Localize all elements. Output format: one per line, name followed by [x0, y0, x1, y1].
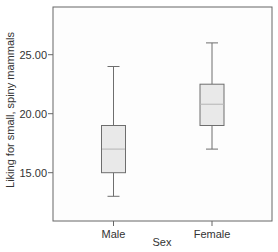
plot-background — [53, 7, 272, 221]
y-tick-label: 20.00 — [19, 108, 47, 120]
y-axis: 15.0020.0025.00 — [19, 49, 53, 179]
box-plot-chart: 15.0020.0025.00 MaleFemale Sex Liking fo… — [0, 0, 278, 252]
x-tick-label: Male — [102, 228, 126, 240]
x-axis-title: Sex — [153, 236, 172, 248]
y-tick-label: 25.00 — [19, 49, 47, 61]
y-axis-title: Liking for small, spiny mammals — [4, 32, 16, 188]
x-tick-label: Female — [194, 228, 231, 240]
y-tick-label: 15.00 — [19, 167, 47, 179]
